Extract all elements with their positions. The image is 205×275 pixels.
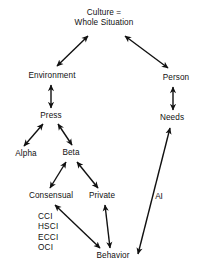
edge-press-alpha (24, 124, 43, 146)
edge-label-ai: AI (155, 192, 163, 201)
node-behavior: Behavior (96, 251, 129, 261)
node-environment: Environment (28, 71, 75, 81)
node-alpha: Alpha (15, 149, 36, 159)
instrument-acronym-list: CCI HSCI ECCI OCI (38, 212, 58, 254)
arrow-layer (0, 0, 205, 275)
edge-consensual-behavior (55, 205, 100, 248)
node-needs: Needs (160, 113, 184, 123)
node-person: Person (163, 73, 190, 83)
node-beta: Beta (62, 148, 79, 158)
node-culture: Culture = Whole Situation (75, 8, 134, 28)
edge-culture-person (125, 36, 168, 68)
edge-culture-environment (57, 36, 88, 66)
node-private: Private (89, 191, 115, 201)
edge-private-behavior (105, 205, 110, 248)
node-consensual: Consensual (29, 191, 73, 201)
concept-diagram: Culture = Whole Situation Environment Pe… (0, 0, 205, 275)
edge-press-beta (58, 124, 72, 145)
edge-behavior-needs (138, 128, 170, 254)
edge-beta-private (77, 162, 98, 188)
node-press: Press (40, 111, 61, 121)
edge-beta-consensual (50, 162, 66, 188)
